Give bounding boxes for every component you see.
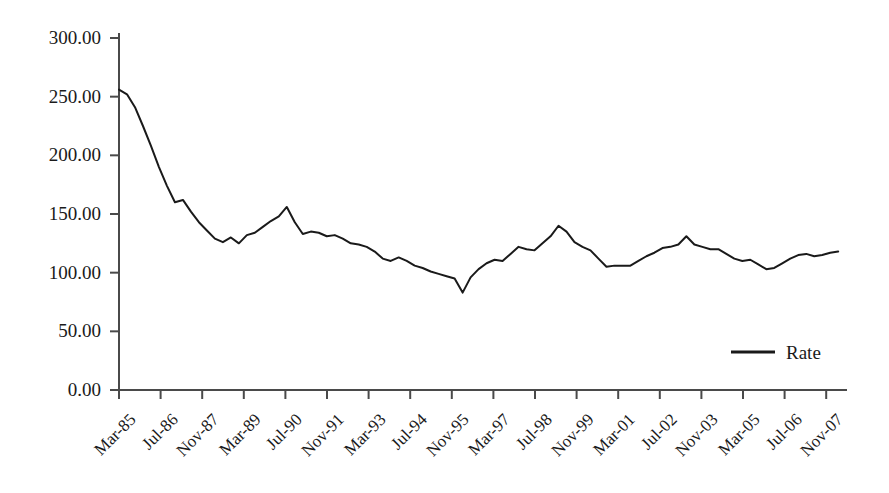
- series-line-rate: [119, 90, 838, 293]
- y-tick-label: 200.00: [0, 145, 101, 164]
- legend-entry-label: Rate: [786, 343, 821, 362]
- y-tick-label: 300.00: [0, 28, 101, 47]
- line-chart: 0.0050.00100.00150.00200.00250.00300.00 …: [0, 0, 889, 493]
- x-axis-ticks: [119, 390, 826, 399]
- y-tick-label: 50.00: [0, 321, 101, 340]
- y-axis-ticks: [110, 38, 119, 390]
- y-tick-label: 250.00: [0, 87, 101, 106]
- y-tick-label: 100.00: [0, 263, 101, 282]
- y-tick-label: 0.00: [0, 380, 101, 399]
- y-tick-label: 150.00: [0, 204, 101, 223]
